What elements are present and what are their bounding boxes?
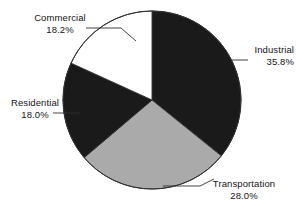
pie-label-commercial-name: Commercial (12, 12, 108, 24)
pie-label-transportation-name: Transportation (196, 178, 292, 190)
pie-label-transportation-value: 28.0% (196, 190, 292, 202)
pie-chart: Commercial 18.2% Industrial 35.8% Reside… (0, 0, 296, 211)
pie-label-transportation: Transportation 28.0% (196, 178, 292, 201)
pie-label-industrial: Industrial 35.8% (238, 44, 294, 67)
pie-label-residential: Residential 18.0% (4, 97, 66, 120)
pie-label-industrial-name: Industrial (238, 44, 294, 56)
pie-label-residential-name: Residential (4, 97, 66, 109)
pie-label-commercial-value: 18.2% (12, 24, 108, 36)
pie-label-industrial-value: 35.8% (238, 56, 294, 68)
pie-label-residential-value: 18.0% (4, 109, 66, 121)
pie-label-commercial: Commercial 18.2% (12, 12, 108, 35)
